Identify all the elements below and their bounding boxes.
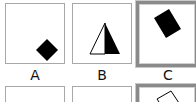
- choice-f-tile[interactable]: [136, 84, 196, 102]
- choice-b-label: B: [72, 68, 132, 82]
- rotated-square-outline-icon: [139, 87, 196, 102]
- rotated-rectangle-icon: [139, 4, 196, 66]
- choice-a-label: A: [5, 68, 65, 82]
- choice-c-tile[interactable]: [136, 1, 196, 67]
- choice-b-tile[interactable]: [72, 3, 132, 64]
- choice-d-tile[interactable]: [5, 86, 65, 102]
- choice-a-tile[interactable]: [5, 3, 65, 64]
- triangle-icon: [73, 4, 131, 63]
- choice-e-tile[interactable]: [72, 86, 132, 102]
- diamond-icon: [6, 4, 64, 63]
- choice-c-label: C: [138, 68, 196, 82]
